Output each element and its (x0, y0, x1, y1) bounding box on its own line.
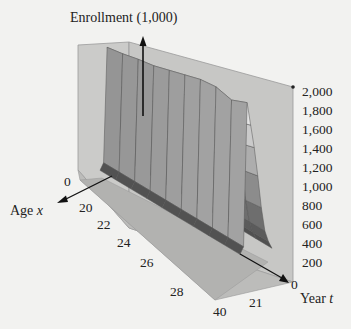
x-tick-24: 24 (117, 235, 131, 250)
z-axis-title: Enrollment (1,000) (70, 10, 178, 26)
surface-cell (228, 100, 247, 247)
x-tick-40: 40 (213, 304, 227, 319)
z-tick: 200 (302, 255, 323, 270)
z-tick: 800 (302, 198, 323, 213)
x-axis-title: Age x (10, 203, 44, 218)
x-tick-22: 22 (97, 217, 111, 232)
t-axis-title: Year t (300, 291, 334, 306)
z-axis-arrowhead (140, 36, 147, 46)
z-tick: 600 (302, 217, 323, 232)
z-tick: 1,400 (302, 141, 333, 156)
x-tick-28: 28 (170, 284, 184, 299)
surface-plot: Enrollment (1,000) Age x Year t 0 20 22 … (0, 0, 351, 329)
t-tick-21: 21 (249, 295, 263, 310)
z-tick: 2,000 (302, 84, 333, 99)
z-tick-labels: 2,000 1,800 1,600 1,400 1,200 1,000 800 … (302, 84, 333, 270)
z-tick: 1,600 (302, 122, 333, 137)
x-tick-20: 20 (79, 200, 93, 215)
t-tick-0: 0 (291, 277, 298, 292)
chart-figure: Enrollment (1,000) Age x Year t 0 20 22 … (0, 0, 351, 329)
x-tick-0: 0 (64, 174, 71, 189)
x-axis-arrowhead (57, 196, 68, 204)
z-tick: 400 (302, 236, 323, 251)
x-tick-26: 26 (140, 255, 154, 270)
z-tick: 1,000 (302, 179, 333, 194)
z-tick: 1,200 (302, 160, 333, 175)
z-tick: 1,800 (302, 103, 333, 118)
z-max-marker (291, 85, 295, 89)
